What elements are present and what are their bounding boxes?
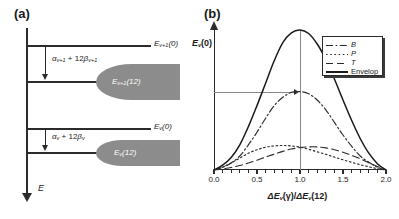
legend-item-envelop[interactable]: Envelop: [326, 67, 382, 76]
energy-axis-arrowhead: [22, 193, 32, 202]
xaxis-gamma: (γ)/: [283, 191, 297, 201]
energy-axis-line: [26, 28, 28, 196]
chart-x-tick: [342, 170, 343, 174]
chart-x-tick-label: 0.0: [208, 175, 219, 184]
gap-label-upper-plus: + 12: [66, 54, 84, 63]
chart-x-minor-tick: [282, 170, 283, 173]
level-label-lower-zero: Ev(0): [154, 122, 172, 131]
legend-swatch-b: [326, 44, 348, 45]
chart-x-minor-tick: [368, 170, 369, 173]
gap-arrow-lower: [45, 129, 46, 146]
chart-x-tick: [213, 170, 214, 174]
gap-label-upper: αv+1 + 12βv+1: [52, 54, 97, 63]
curve-t: [214, 147, 386, 170]
band-label-upper: Ev+1(12): [112, 77, 141, 86]
panel-a-label: (a): [14, 6, 30, 21]
band-label-lower-tail: (12): [122, 148, 136, 157]
chart-legend: BPTEnvelop: [322, 36, 383, 76]
gap-label-upper-beta-sub: v+1: [88, 57, 97, 63]
gap-label-lower-beta-sub: v: [82, 135, 85, 141]
chart-x-minor-tick: [248, 170, 249, 173]
panel-b-chart: (b) Ev(0) 0.00.51.01.52.0 ΔEv(γ)/ΔEv(12)…: [196, 0, 399, 219]
chart-x-minor-tick: [291, 170, 292, 173]
chart-x-minor-tick: [239, 170, 240, 173]
chart-x-minor-tick: [334, 170, 335, 173]
chart-x-tick-label: 0.5: [251, 175, 262, 184]
chart-x-tick-label: 1.5: [337, 175, 348, 184]
gap-label-lower: αv + 12βv: [52, 132, 85, 141]
band-label-upper-tail: (12): [126, 77, 140, 86]
legend-label-b: B: [351, 40, 356, 49]
chart-x-minor-tick: [231, 170, 232, 173]
panel-a-energy-diagram: (a) E Ev+1(0) αv+1 + 12βv+1 Ev+1(12) Ev(…: [0, 0, 196, 219]
legend-swatch-t: [326, 62, 348, 63]
level-label-lower-zero-tail: (0): [162, 122, 172, 131]
legend-label-t: T: [351, 58, 356, 67]
chart-x-tick: [256, 170, 257, 174]
energy-axis-label: E: [38, 183, 44, 193]
gap-arrow-upper-head: [42, 74, 48, 80]
chart-x-minor-tick: [351, 170, 352, 173]
level-label-upper-zero: Ev+1(0): [154, 39, 178, 48]
gap-label-upper-alpha-sub: v+1: [57, 57, 66, 63]
chart-x-minor-tick: [325, 170, 326, 173]
figure-root: (a) E Ev+1(0) αv+1 + 12βv+1 Ev+1(12) Ev(…: [0, 0, 399, 219]
band-blob-lower: [96, 140, 180, 166]
chart-x-minor-tick: [222, 170, 223, 173]
chart-x-axis-title: ΔEv(γ)/ΔEv(12): [196, 191, 399, 201]
chart-x-minor-tick: [265, 170, 266, 173]
legend-label-envelop: Envelop: [351, 67, 378, 76]
chart-curves: [196, 0, 399, 219]
band-label-lower: Ev(12): [114, 148, 136, 157]
legend-swatch-p: [326, 53, 348, 54]
chart-x-tick-label: 1.0: [294, 175, 305, 184]
curve-p: [214, 146, 386, 171]
chart-x-tick: [385, 170, 386, 174]
gap-label-lower-plus: + 12: [59, 132, 77, 141]
chart-x-tick-label: 2.0: [380, 175, 391, 184]
level-label-upper-zero-tail: (0): [168, 39, 178, 48]
chart-x-minor-tick: [308, 170, 309, 173]
curve-b: [214, 91, 386, 170]
chart-x-minor-tick: [274, 170, 275, 173]
chart-x-minor-tick: [360, 170, 361, 173]
gap-arrow-upper: [45, 46, 46, 75]
chart-x-minor-tick: [300, 170, 301, 173]
gap-arrow-lower-head: [42, 145, 48, 151]
chart-x-minor-tick: [377, 170, 378, 173]
xaxis-tail: (12): [311, 191, 327, 201]
chart-x-minor-tick: [317, 170, 318, 173]
legend-swatch-envelop: [326, 71, 348, 73]
legend-label-p: P: [351, 49, 356, 58]
